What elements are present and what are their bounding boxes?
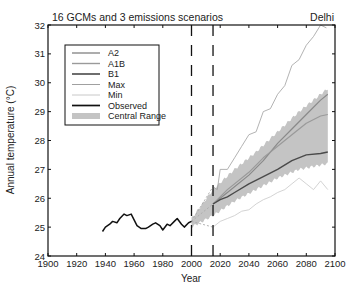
legend-label: A1B <box>108 59 125 69</box>
legend-label: A2 <box>108 48 119 58</box>
y-tick-label: 31 <box>34 48 45 59</box>
chart-title: 16 GCMs and 3 emissions scenarios <box>52 11 223 23</box>
y-tick-label: 32 <box>34 20 45 31</box>
x-tick-label: 1980 <box>152 258 173 269</box>
legend-label: Max <box>108 80 126 90</box>
legend: A2A1BB1MaxMinObservedCentral Range <box>65 45 166 125</box>
x-tick-label: 1940 <box>95 258 116 269</box>
temperature-chart: 1900192019401960198020002020204020602080… <box>0 0 352 294</box>
central-range-band <box>192 89 328 228</box>
chart-svg: 1900192019401960198020002020204020602080… <box>0 0 352 294</box>
legend-label: Observed <box>108 101 147 111</box>
legend-label: Central Range <box>108 111 166 121</box>
x-tick-label: 2020 <box>210 258 231 269</box>
x-tick-label: 2000 <box>181 258 202 269</box>
series-observed-line <box>103 214 192 231</box>
y-axis-label: Annual temperature (°C) <box>5 86 16 195</box>
x-tick-label: 2060 <box>267 258 288 269</box>
x-tick-label: 2100 <box>324 258 345 269</box>
y-tick-label: 25 <box>34 222 45 233</box>
x-tick-label: 2040 <box>238 258 259 269</box>
y-tick-label: 26 <box>34 193 45 204</box>
y-tick-label: 30 <box>34 77 45 88</box>
y-tick-label: 29 <box>34 106 45 117</box>
y-tick-label: 27 <box>34 164 45 175</box>
legend-swatch-central-range <box>72 113 100 119</box>
x-axis-label: Year <box>181 273 202 284</box>
central-range-area <box>192 89 328 228</box>
legend-label: Min <box>108 90 123 100</box>
location-label: Delhi <box>310 11 334 23</box>
x-tick-label: 2080 <box>296 258 317 269</box>
x-tick-label: 1960 <box>124 258 145 269</box>
y-tick-label: 28 <box>34 135 45 146</box>
y-tick-label: 24 <box>34 251 45 262</box>
x-tick-label: 1920 <box>66 258 87 269</box>
legend-label: B1 <box>108 69 119 79</box>
